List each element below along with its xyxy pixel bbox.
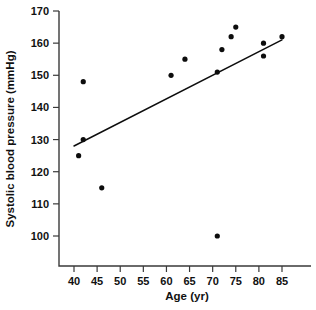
x-tick-label: 75 — [230, 275, 242, 287]
data-point — [219, 47, 224, 52]
data-point — [76, 153, 81, 158]
y-tick-label: 130 — [31, 134, 49, 146]
data-point — [99, 185, 104, 190]
data-point — [215, 233, 220, 238]
data-point — [229, 34, 234, 39]
scatter-plot-figure: 100110120130140150160170 404550556065707… — [0, 0, 316, 310]
x-tick-label: 70 — [207, 275, 219, 287]
y-tick-label: 170 — [31, 5, 49, 17]
y-tick-label: 120 — [31, 166, 49, 178]
data-points-group — [76, 24, 285, 238]
y-tick-label: 150 — [31, 69, 49, 81]
y-tick-label: 160 — [31, 37, 49, 49]
data-point — [81, 79, 86, 84]
x-tick-label: 80 — [253, 275, 265, 287]
regression-line — [74, 40, 282, 146]
x-tick-label: 55 — [137, 275, 149, 287]
x-tick-label: 45 — [91, 275, 103, 287]
x-tick-label: 65 — [183, 275, 195, 287]
plot-canvas: 100110120130140150160170 404550556065707… — [0, 0, 316, 310]
data-point — [168, 73, 173, 78]
data-point — [81, 137, 86, 142]
y-tick-label: 110 — [31, 198, 49, 210]
x-tick-label: 50 — [114, 275, 126, 287]
x-tick-label: 40 — [68, 275, 80, 287]
x-axis-ticks — [74, 266, 282, 272]
data-point — [215, 69, 220, 74]
y-tick-label: 140 — [31, 101, 49, 113]
x-axis-tick-labels: 40455055606570758085 — [68, 275, 288, 287]
regression-line-group — [74, 40, 282, 146]
data-point — [279, 34, 284, 39]
y-axis-tick-labels: 100110120130140150160170 — [31, 5, 49, 242]
y-axis-ticks — [53, 11, 59, 236]
axis-frame — [59, 11, 311, 266]
x-tick-label: 85 — [276, 275, 288, 287]
data-point — [233, 24, 238, 29]
y-axis-title: Systolic blood pressure (mmHg) — [4, 50, 16, 227]
data-point — [261, 53, 266, 58]
y-tick-label: 100 — [31, 230, 49, 242]
data-point — [261, 41, 266, 46]
data-point — [182, 57, 187, 62]
x-axis-title: Age (yr) — [165, 290, 209, 302]
x-tick-label: 60 — [160, 275, 172, 287]
axes-group — [59, 11, 311, 266]
